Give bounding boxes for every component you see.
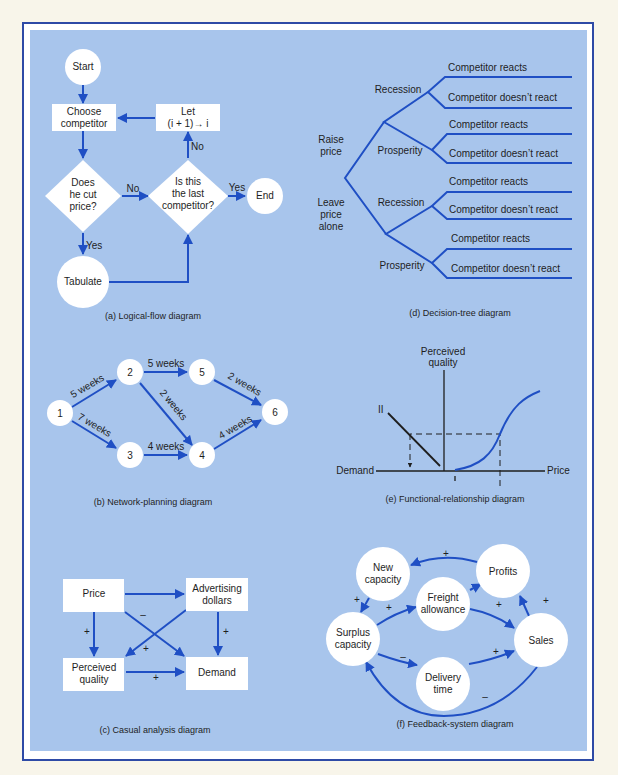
sign-delivery-sales: + <box>493 646 499 657</box>
arrow-surplus-delivery <box>378 654 417 665</box>
edge-label-3-4: 4 weeks <box>148 441 185 452</box>
edge-label-2-5: 5 weeks <box>148 358 185 369</box>
s-curve-i <box>455 391 540 470</box>
node-4-label: 4 <box>199 450 205 461</box>
causal-analysis-diagram: Price Advertising dollars Perceived qual… <box>63 578 248 735</box>
yes-label-1: Yes <box>86 240 102 251</box>
outcome-label-5: Competitor reacts <box>449 176 528 187</box>
sign-freight-sales: + <box>496 599 502 610</box>
tabulate-label: Tabulate <box>64 276 102 287</box>
demand-label: Demand <box>336 465 374 476</box>
new-capacity-label-1: New <box>373 562 394 573</box>
let-label-1: Let <box>181 106 195 117</box>
state-label-2: Prosperity <box>377 145 422 156</box>
tree-raise-branches <box>384 92 432 150</box>
y-axis-label-2: quality <box>429 357 458 368</box>
sign-adv-pq: + <box>143 643 149 654</box>
feedback-system-diagram: New capacity Profits Freight allowance S… <box>326 544 568 729</box>
delivery-label-2: time <box>434 684 453 695</box>
tree-root-branches <box>345 122 386 234</box>
let-label-2: (i + 1)→ i <box>168 118 209 129</box>
outcome-label-4: Competitor doesn’t react <box>449 148 558 159</box>
outcome-label-2: Competitor doesn’t react <box>448 92 557 103</box>
node-3-label: 3 <box>127 450 133 461</box>
arrow-freight-profits <box>470 584 481 590</box>
choose-label-2: competitor <box>61 118 108 129</box>
advertising-label-1: Advertising <box>192 583 241 594</box>
caption-d: (d) Decision-tree diagram <box>409 308 511 318</box>
start-label: Start <box>72 61 93 72</box>
choose-label-1: Choose <box>67 106 102 117</box>
arrow-freight-sales <box>470 609 514 628</box>
sign-profits-new: + <box>443 548 449 559</box>
network-planning-diagram: 1 2 3 4 5 6 5 weeks 7 weeks 5 weeks 2 we… <box>47 358 288 507</box>
node-1-label: 1 <box>57 408 63 419</box>
sign-sales-surplus: – <box>482 691 488 702</box>
caption-f: (f) Feedback-system diagram <box>396 719 513 729</box>
sign-new-surplus: + <box>354 594 360 605</box>
line-ii <box>388 413 440 466</box>
edge-label-5-6: 2 weeks <box>226 370 263 398</box>
islast-label-1: Is this <box>175 176 201 187</box>
caption-e: (e) Functional-relationship diagram <box>385 494 524 504</box>
sign-surplus-freight: + <box>386 602 392 613</box>
sign-pq-demand: + <box>153 672 159 683</box>
edge-label-1-2: 5 weeks <box>69 372 106 400</box>
outcome-label-7: Competitor reacts <box>451 233 530 244</box>
caption-b: (b) Network-planning diagram <box>94 497 213 507</box>
new-capacity-label-2: capacity <box>365 574 402 585</box>
decision-tree-diagram: Raise price Leave price alone Recession … <box>317 62 572 318</box>
does-label-2: he cut <box>69 189 96 200</box>
state-label-1: Recession <box>375 84 422 95</box>
does-label-3: price? <box>69 201 97 212</box>
islast-label-3: competitor? <box>162 200 215 211</box>
curve-ii-label: II <box>378 404 384 415</box>
price-label: Price <box>83 588 106 599</box>
leave-label-2: price <box>320 209 342 220</box>
end-label: End <box>256 190 274 201</box>
outcome-label-6: Competitor doesn’t react <box>449 204 558 215</box>
arrow-newcapacity-surplus <box>361 598 369 612</box>
demand-label: Demand <box>198 667 236 678</box>
surplus-label-1: Surplus <box>336 627 370 638</box>
state-label-4: Prosperity <box>379 260 424 271</box>
sign-adv-demand: + <box>223 626 229 637</box>
no-label-2: No <box>191 141 204 152</box>
arrow-tabulate-islast <box>109 235 188 282</box>
yes-label-2: Yes <box>229 182 245 193</box>
logical-flow-diagram: Start Choose competitor Does he cut pric… <box>45 49 283 321</box>
freight-label-2: allowance <box>421 604 466 615</box>
advertising-label-2: dollars <box>202 595 231 606</box>
sales-label: Sales <box>528 635 553 646</box>
surplus-label-2: capacity <box>335 639 372 650</box>
delivery-label-1: Delivery <box>425 672 461 683</box>
diagram-canvas: Start Choose competitor Does he cut pric… <box>0 0 618 775</box>
arrow-advertising-perceived <box>126 610 186 656</box>
freight-label-1: Freight <box>427 592 458 603</box>
arrow-sales-profits <box>520 596 529 616</box>
outcome-label-8: Competitor doesn’t react <box>451 263 560 274</box>
raise-label-2: price <box>320 146 342 157</box>
caption-c: (c) Casual analysis diagram <box>99 725 210 735</box>
leave-label-3: alone <box>319 221 344 232</box>
leave-label-1: Leave <box>317 197 345 208</box>
raise-label-1: Raise <box>318 134 344 145</box>
profits-label: Profits <box>489 566 517 577</box>
caption-a: (a) Logical-flow diagram <box>105 311 201 321</box>
islast-label-2: the last <box>172 188 204 199</box>
outcome-label-3: Competitor reacts <box>449 119 528 130</box>
functional-relationship-diagram: Perceived quality Demand Price II (e) Fu… <box>336 346 570 504</box>
sign-sales-profits: + <box>543 595 549 606</box>
no-label-1: No <box>127 183 140 194</box>
y-axis-label-1: Perceived <box>421 346 465 357</box>
edge-label-2-4: 2 weeks <box>158 387 190 422</box>
node-6-label: 6 <box>272 407 278 418</box>
arrow-delivery-sales <box>469 651 514 664</box>
tree-leave-branches <box>386 206 432 263</box>
arrow-surplus-freight <box>377 607 416 625</box>
sign-price-demand: – <box>140 609 146 620</box>
node-2-label: 2 <box>127 367 133 378</box>
outcome-label-1: Competitor reacts <box>448 62 527 73</box>
does-label-1: Does <box>71 177 94 188</box>
perceived-label-2: quality <box>80 674 109 685</box>
